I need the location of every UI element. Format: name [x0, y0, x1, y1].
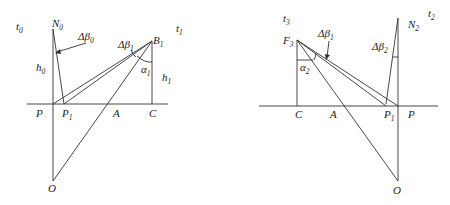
label-alpha2: α2	[300, 61, 310, 76]
label-A: A	[112, 107, 120, 119]
label-h1: h1	[162, 71, 171, 86]
label-t3: t3	[283, 12, 290, 27]
label-dbeta1-right: Δβ1	[317, 27, 334, 42]
label-P-right: P	[407, 108, 415, 120]
label-dbeta1: Δβ1	[117, 38, 134, 53]
label-t0: t0	[16, 20, 23, 35]
right-arc-tick	[314, 53, 316, 60]
label-h0: h0	[36, 61, 46, 76]
diagram-canvas: t0 N0 Δβ0 h0 Δβ1 B1 t1 α1 h1 P P1 A C O …	[0, 0, 450, 205]
label-B1: B1	[153, 34, 163, 49]
label-t2: t2	[428, 7, 435, 22]
left-line-N0-P1	[53, 29, 64, 104]
left-line-P1-B1	[64, 41, 152, 104]
left-panel: t0 N0 Δβ0 h0 Δβ1 B1 t1 α1 h1 P P1 A C O	[16, 17, 183, 194]
label-C: C	[149, 107, 157, 119]
label-P: P	[35, 107, 43, 119]
label-alpha1: α1	[141, 63, 151, 78]
right-panel: t3 F3 Δβ1 α2 N2 t2 Δβ2 C A P1 P O	[259, 7, 438, 196]
label-C-right: C	[295, 108, 303, 120]
label-t1: t1	[176, 22, 183, 37]
label-P1: P1	[61, 107, 72, 122]
right-line-N2-P1	[386, 18, 398, 104]
right-line-F3-O	[297, 40, 398, 181]
label-O-right: O	[393, 184, 401, 196]
label-P1-right: P1	[383, 108, 394, 123]
label-O: O	[48, 182, 56, 194]
label-dbeta2: Δβ2	[371, 40, 388, 55]
left-arrow-dbeta0	[57, 43, 86, 52]
left-line-P-B1	[53, 41, 152, 104]
label-F3: F3	[282, 34, 294, 49]
label-A-right: A	[329, 108, 337, 120]
label-N2: N2	[407, 18, 419, 33]
